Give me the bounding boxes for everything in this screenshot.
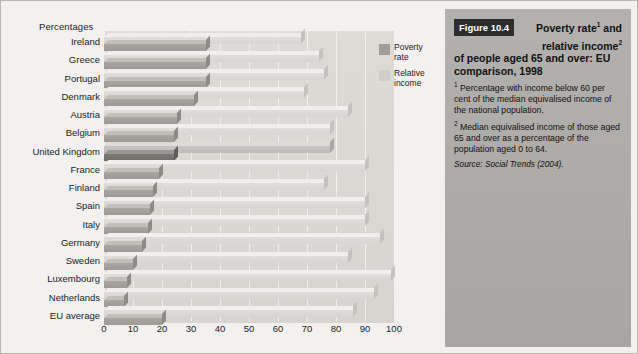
figure-note-1: 1 Percentage with income below 60 per ce… [454,79,622,116]
bar-poverty-rate-france-face [104,172,159,179]
category-label-united-kingdom: United Kingdom [1,146,100,157]
category-label-germany: Germany [1,237,100,248]
category-label-italy: Italy [1,219,100,230]
figure-title-text1: Poverty rate [536,22,597,34]
bar-poverty-rate-finland-face [104,190,153,197]
figure-title-rest: of people aged 65 and over: EU compariso… [454,52,622,77]
category-label-finland: Finland [1,182,100,193]
x-tick-80: 80 [331,323,342,334]
bar-poverty-rate-ireland [104,44,206,51]
x-tick-100: 100 [386,323,402,334]
figure-title-text2: relative income [542,40,618,52]
category-axis-labels: IrelandGreecePortugalDenmarkAustriaBelgi… [1,31,100,323]
category-label-austria: Austria [1,109,100,120]
bar-relative-income-luxembourg-face [104,274,391,281]
x-tick-30: 30 [186,323,197,334]
category-label-spain: Spain [1,200,100,211]
bar-poverty-rate-germany [104,245,142,252]
bar-relative-income-sweden [104,256,348,263]
x-tick-10: 10 [128,323,139,334]
chart-panel: Percentages IrelandGreecePortugalDenmark… [1,1,431,354]
category-label-eu-average: EU average [1,310,100,321]
x-axis: 0102030405060708090100 [104,323,404,343]
x-tick-90: 90 [360,323,371,334]
category-label-luxembourg: Luxembourg [1,273,100,284]
chart-legend: Poverty rate Relative income [379,43,431,95]
poverty-swatch-icon [379,44,390,55]
category-label-portugal: Portugal [1,73,100,84]
category-label-belgium: Belgium [1,127,100,138]
note-2-marker: 2 [454,120,458,127]
figure-source: Source: Social Trends (2004). [454,159,622,169]
figure-page: Percentages IrelandGreecePortugalDenmark… [0,0,638,354]
figure-title-and: and [600,22,622,34]
bar-relative-income-netherlands-face [104,292,374,299]
figure-title-line2: relative income2 [454,37,622,52]
category-label-denmark: Denmark [1,91,100,102]
legend-label-income: Relative income [394,69,425,88]
figure-title-sup2: 2 [618,39,622,46]
bar-poverty-rate-denmark [104,99,194,106]
figure-number-badge: Figure 10.4 [454,19,514,36]
legend-income-line2: income [394,78,421,88]
bar-relative-income-luxembourg [104,274,391,281]
x-tick-20: 20 [157,323,168,334]
category-label-greece: Greece [1,54,100,65]
figure-side-panel: Figure 10.4 Poverty rate1 and relative i… [445,9,631,347]
note-2-text: Median equivalised income of those aged … [454,122,620,154]
bar-relative-income-sweden-face [104,256,348,263]
plot-area [104,31,394,321]
legend-poverty-line1: Poverty [394,42,423,52]
note-1-text: Percentage with income below 60 per cent… [454,83,611,115]
figure-note-2: 2 Median equivalised income of those age… [454,118,622,155]
x-tick-60: 60 [273,323,284,334]
figure-title-line1: Poverty rate1 and [514,19,622,34]
bar-poverty-rate-ireland-face [104,44,206,51]
bar-poverty-rate-germany-face [104,245,142,252]
category-label-sweden: Sweden [1,255,100,266]
x-tick-50: 50 [244,323,255,334]
bar-poverty-rate-sweden-face [104,263,133,270]
category-label-ireland: Ireland [1,36,100,47]
note-1-marker: 1 [454,81,458,88]
legend-item-relative-income: Relative income [379,69,431,88]
x-tick-0: 0 [101,323,106,334]
bar-poverty-rate-austria [104,117,177,124]
bar-poverty-rate-denmark-face [104,99,194,106]
category-label-netherlands: Netherlands [1,292,100,303]
legend-item-poverty-rate: Poverty rate [379,43,431,62]
bar-relative-income-netherlands [104,292,374,299]
legend-poverty-line2: rate [394,52,409,62]
relative-income-swatch-icon [379,70,390,81]
bar-poverty-rate-austria-face [104,117,177,124]
x-tick-40: 40 [215,323,226,334]
bar-poverty-rate-finland [104,190,153,197]
x-tick-70: 70 [302,323,313,334]
category-label-france: France [1,164,100,175]
legend-label-poverty: Poverty rate [394,43,423,62]
legend-income-line1: Relative [394,68,425,78]
bar-poverty-rate-sweden [104,263,133,270]
bar-poverty-rate-france [104,172,159,179]
figure-header: Figure 10.4 Poverty rate1 and [454,19,622,36]
